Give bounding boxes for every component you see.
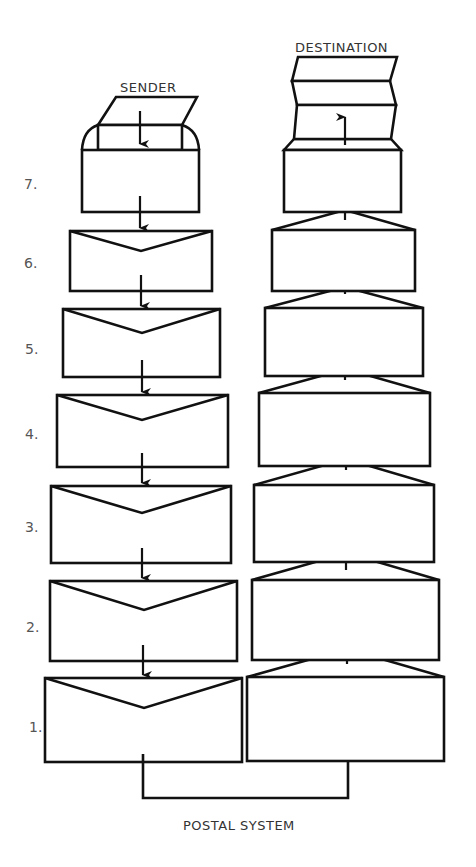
postal-system-label: POSTAL SYSTEM (183, 818, 295, 833)
layer-number-2: 2. (26, 619, 39, 635)
postal-layer-diagram (0, 0, 476, 867)
destination-layer-5-envelope (265, 287, 423, 376)
layer-number-7: 7. (24, 176, 37, 192)
destination-layer-7-envelope (284, 57, 401, 212)
layer-number-1: 1. (29, 719, 42, 735)
destination-layer-1-envelope (247, 649, 444, 761)
layer-number-4: 4. (25, 426, 38, 442)
destination-layer-6-envelope (272, 210, 415, 291)
destination-stack (247, 57, 444, 761)
sender-layer-1-envelope (45, 678, 242, 762)
layer-number-6: 6. (24, 255, 37, 271)
sender-label: SENDER (120, 80, 176, 95)
layer-number-3: 3. (25, 519, 38, 535)
destination-layer-3-envelope (254, 459, 434, 562)
destination-layer-4-envelope (259, 369, 430, 466)
destination-label: DESTINATION (295, 40, 388, 55)
layer-number-5: 5. (25, 341, 38, 357)
sender-stack (45, 97, 242, 762)
sender-layer-7-envelope (82, 97, 199, 212)
